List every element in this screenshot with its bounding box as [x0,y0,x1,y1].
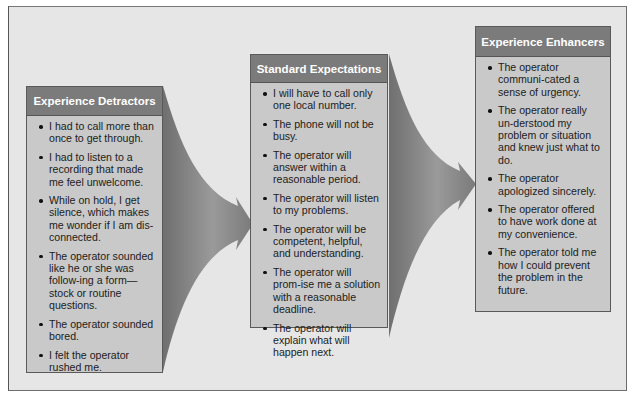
list-item: The operator really un-derstood my probl… [486,104,604,166]
list-item: The operator will explain what will happ… [261,322,381,359]
list-item: I had to call more than once to get thro… [37,120,156,145]
list-item: The operator will prom-ise me a solution… [261,266,381,316]
panel-experience-detractors: Experience Detractors I had to call more… [26,86,163,373]
list-item: I had to listen to a recording that made… [37,151,156,188]
item-list: I had to call more than once to get thro… [27,116,162,373]
panel-standard-expectations: Standard Expectations I will have to cal… [250,54,388,328]
panel-title: Standard Expectations [251,55,387,83]
list-item: While on hold, I get silence, which make… [37,194,156,244]
list-item: The phone will not be busy. [261,118,381,143]
list-item: I felt the operator rushed me. [37,349,156,374]
list-item: The operator told me how I could prevent… [486,246,604,296]
list-item: The operator communi-cated a sense of ur… [486,61,604,98]
funnel-arrow-icon [160,86,256,376]
panel-experience-enhancers: Experience Enhancers The operator commun… [475,26,611,312]
panel-title: Experience Enhancers [476,27,610,57]
list-item: The operator will be competent, helpful,… [261,223,381,260]
list-item: The operator will listen to my problems. [261,192,381,217]
list-item: The operator sounded like he or she was … [37,250,156,312]
panel-title: Experience Detractors [27,87,162,116]
list-item: The operator sounded bored. [37,318,156,343]
list-item: The operator apologized sincerely. [486,172,604,197]
list-item: The operator offered to have work done a… [486,203,604,240]
item-list: I will have to call only one local numbe… [251,83,387,359]
funnel-arrow-icon [386,54,480,344]
list-item: I will have to call only one local numbe… [261,87,381,112]
list-item: The operator will answer within a reason… [261,149,381,186]
item-list: The operator communi-cated a sense of ur… [476,57,610,296]
